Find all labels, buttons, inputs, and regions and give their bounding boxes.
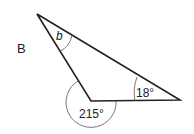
angle-215-label: 215° — [79, 107, 104, 121]
triangle-diagram: B b 18° 215° — [0, 0, 194, 134]
triangle — [37, 14, 180, 101]
angle-18-label: 18° — [136, 86, 154, 100]
angle-b-label: b — [56, 29, 63, 43]
figure-label: B — [17, 41, 26, 56]
